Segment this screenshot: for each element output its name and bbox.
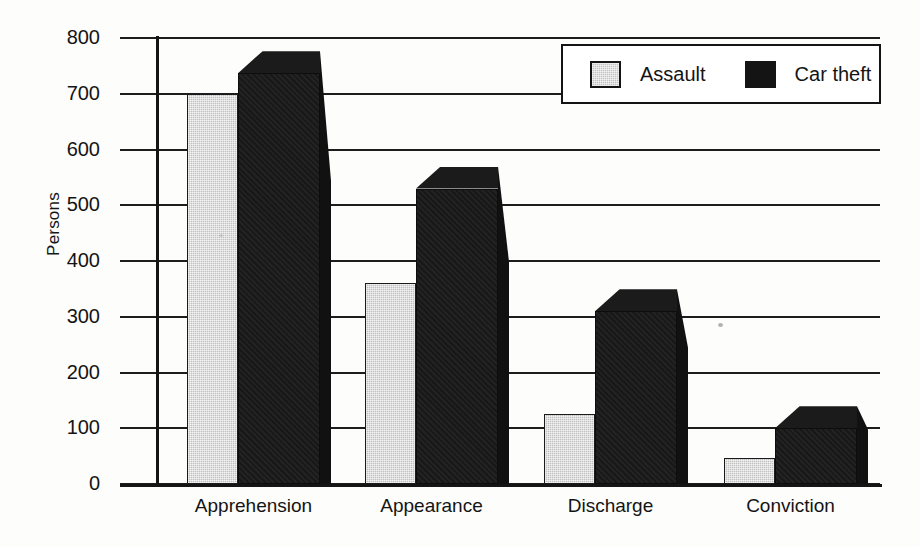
bar-chart: Persons 8007006005004003002001000 Appreh…: [0, 0, 920, 547]
bar-face: [416, 189, 498, 484]
bar-side-face: [320, 51, 331, 484]
bar-appearance-car-theft: [416, 189, 498, 484]
bar-discharge-assault: [544, 414, 595, 484]
y-axis-tick: [120, 93, 156, 95]
scan-speck: [219, 234, 223, 237]
x-axis-tick-label-appearance: Appearance: [342, 495, 522, 517]
y-axis-tick-label: 700: [36, 83, 100, 103]
y-axis-tick: [120, 260, 156, 262]
bar-appearance-assault: [365, 283, 416, 484]
gridline: [156, 37, 880, 39]
bar-top-face: [416, 167, 498, 189]
y-axis-line: [156, 36, 159, 486]
legend-item-assault[interactable]: Assault: [590, 46, 706, 102]
x-axis-tick-labels: ApprehensionAppearanceDischargeConvictio…: [156, 495, 880, 529]
y-axis-tick: [120, 204, 156, 206]
bar-top-face: [595, 289, 677, 311]
y-axis-tick-label: 100: [36, 417, 100, 437]
scan-speck: [718, 323, 723, 327]
y-axis-tick-label: 600: [36, 139, 100, 159]
legend-label: Car theft: [795, 63, 872, 86]
bar-face: [187, 94, 238, 484]
x-axis-line: [120, 484, 882, 487]
legend-label: Assault: [640, 63, 706, 86]
bar-top-face: [775, 406, 857, 428]
y-axis-tick: [120, 316, 156, 318]
bar-top-face: [238, 51, 320, 73]
bar-side-face: [498, 167, 509, 484]
y-axis-tick-label: 0: [36, 473, 100, 493]
bar-face: [775, 428, 857, 484]
gray-swatch: [590, 61, 621, 88]
y-axis-tick: [120, 372, 156, 374]
y-axis-tick-label: 800: [36, 27, 100, 47]
y-axis-tick-label: 400: [36, 250, 100, 270]
bar-conviction-assault: [724, 458, 775, 484]
y-axis-tick-labels: 8007006005004003002001000: [36, 38, 100, 484]
bar-face: [595, 311, 677, 484]
bar-conviction-car-theft: [775, 428, 857, 484]
bar-side-face: [677, 289, 688, 484]
y-axis-tick-label: 500: [36, 194, 100, 214]
x-axis-tick-label-conviction: Conviction: [701, 495, 881, 517]
y-axis-tick: [120, 427, 156, 429]
bar-face: [724, 458, 775, 484]
x-axis-tick-label-apprehension: Apprehension: [164, 495, 344, 517]
legend: AssaultCar theft: [561, 44, 881, 104]
bar-face: [365, 283, 416, 484]
bar-apprehension-car-theft: [238, 73, 320, 484]
bar-apprehension-assault: [187, 94, 238, 484]
y-axis-tick: [120, 149, 156, 151]
y-axis-tick-label: 200: [36, 362, 100, 382]
y-axis-tick: [120, 37, 156, 39]
black-swatch: [745, 61, 776, 88]
y-axis-tick-label: 300: [36, 306, 100, 326]
legend-item-car-theft[interactable]: Car theft: [745, 46, 872, 102]
bar-face: [238, 73, 320, 484]
bar-discharge-car-theft: [595, 311, 677, 484]
bar-side-face: [857, 406, 868, 484]
plot-area: [156, 38, 880, 484]
x-axis-tick-label-discharge: Discharge: [521, 495, 701, 517]
bar-face: [544, 414, 595, 484]
